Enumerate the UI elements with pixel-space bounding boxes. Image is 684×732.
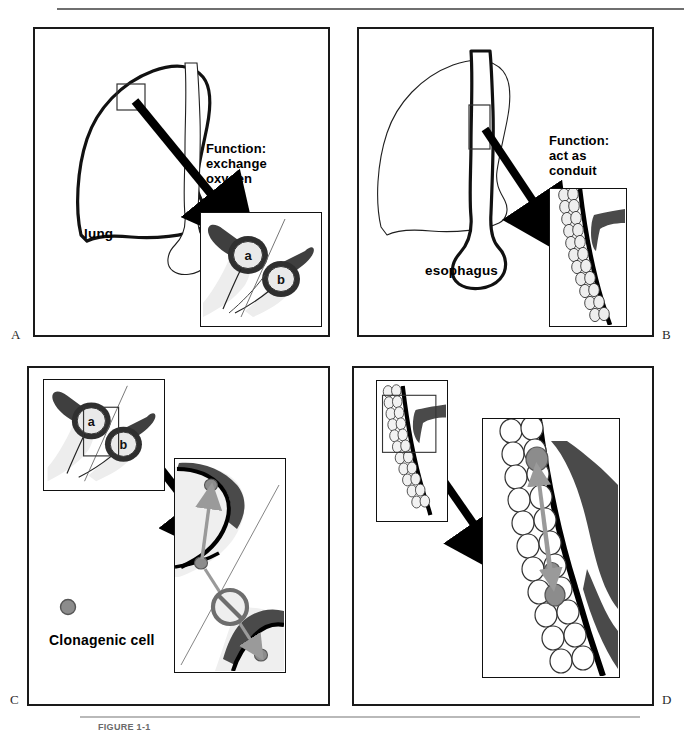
panel-d-magnified-inset <box>482 418 620 678</box>
panel-a-function-label: Function: exchange oxygen <box>206 141 267 186</box>
panel-b: Function: act as conduit esophagus <box>357 27 654 337</box>
clonogenic-cell <box>205 479 218 491</box>
top-divider-rule <box>57 8 684 10</box>
prohibition-icon <box>213 590 247 624</box>
figure-caption: FIGURE 1-1 <box>98 722 658 732</box>
clonogenic-cell-legend-marker <box>57 596 79 618</box>
panel-letter-c: C <box>10 692 19 708</box>
panel-b-epithelium-inset <box>549 188 627 327</box>
panel-d-epithelium-inset <box>376 380 448 522</box>
panel-b-organ-label: esophagus <box>425 263 498 278</box>
panel-c-alveoli-inset: a b <box>43 379 165 491</box>
clonogenic-cell <box>526 447 548 471</box>
panel-c: a b <box>27 366 330 706</box>
panel-c-migration-inset <box>174 458 286 673</box>
clonogenic-migration-diagram-d <box>483 419 618 676</box>
panel-b-function-label: Function: act as conduit <box>549 133 609 178</box>
alveolus-label-b: b <box>277 272 285 287</box>
epithelium-diagram-b <box>550 189 625 325</box>
alveolus-label-a: a <box>88 415 96 429</box>
clonogenic-cell <box>255 649 268 661</box>
panel-a-organ-label: lung <box>84 226 113 241</box>
panel-letter-b: B <box>662 327 671 343</box>
alveoli-diagram-a: a b <box>201 213 320 325</box>
alveolus-label-b: b <box>120 438 128 452</box>
figure-root: a b Function: exchange oxygen lung A <box>0 0 684 732</box>
epithelium-diagram-d-small <box>377 381 446 520</box>
clonogenic-cell-legend-label: Clonagenic cell <box>49 632 155 648</box>
alveolus-label-a: a <box>244 248 252 263</box>
clonogenic-cell <box>545 584 565 606</box>
panel-a: a b Function: exchange oxygen lung <box>33 27 330 337</box>
panel-d <box>352 366 654 706</box>
alveoli-diagram-c: a b <box>44 380 163 489</box>
caption-divider-rule <box>80 716 640 718</box>
clonogenic-migration-diagram-c <box>175 459 284 671</box>
panel-letter-d: D <box>662 692 671 708</box>
panel-a-alveoli-inset: a b <box>200 212 322 327</box>
panel-letter-a: A <box>11 327 20 343</box>
